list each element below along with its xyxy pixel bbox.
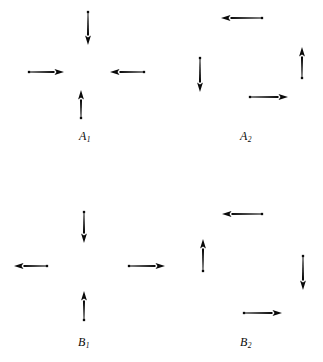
panel-label-A1-subscript: 1	[87, 135, 91, 144]
arrow-tail-dot	[87, 11, 89, 13]
A1-bottom-arrow	[78, 90, 84, 119]
vector-field-figure: A1 A2 B1 B2	[0, 0, 323, 362]
panel-arrows-B2	[200, 211, 306, 316]
panel-label-B2-subscript: 2	[248, 341, 252, 350]
A2-left-arrow	[197, 57, 203, 92]
panel-label-A2-text: A	[240, 129, 247, 143]
panel-label-A1: A1	[79, 130, 90, 142]
arrow-head	[273, 310, 283, 316]
arrow-shaft	[120, 71, 145, 73]
arrow-shaft	[199, 58, 201, 83]
arrow-tail-dot	[83, 211, 85, 213]
arrow-head	[14, 263, 24, 269]
panel-label-A1-text: A	[79, 129, 86, 143]
arrow-head	[221, 15, 231, 21]
arrow-tail-dot	[249, 96, 251, 98]
arrow-head	[81, 234, 87, 244]
panel-arrows-A2	[197, 15, 305, 100]
arrow-head	[110, 69, 120, 75]
arrow-shaft	[244, 312, 273, 314]
arrow-shaft	[232, 213, 263, 215]
A1-right-arrow	[110, 69, 145, 75]
B2-right-arrow	[300, 255, 306, 290]
B1-right-arrow	[128, 263, 165, 269]
arrow-shaft	[80, 100, 82, 119]
arrow-tail-dot	[80, 117, 82, 119]
arrow-tail-dot	[199, 57, 201, 59]
arrow-shaft	[301, 57, 303, 79]
panel-label-B2: B2	[240, 336, 251, 348]
arrow-head	[200, 239, 206, 249]
panel-arrows-A1	[28, 11, 145, 119]
arrow-shaft	[24, 265, 48, 267]
arrow-head	[85, 36, 91, 46]
panel-arrows-B1	[14, 211, 165, 321]
arrow-shaft	[83, 301, 85, 321]
panel-label-B1-text: B	[78, 335, 85, 349]
B1-left-arrow	[14, 263, 48, 269]
arrow-head	[300, 281, 306, 291]
arrow-shaft	[83, 212, 85, 234]
arrow-head	[222, 211, 232, 217]
arrow-head	[81, 291, 87, 301]
arrow-tail-dot	[128, 265, 130, 267]
arrow-tail-dot	[202, 270, 204, 272]
panel-label-A2-subscript: 2	[248, 135, 252, 144]
arrow-tail-dot	[46, 265, 48, 267]
A2-right-arrow	[299, 47, 305, 79]
arrow-shaft	[231, 17, 263, 19]
arrow-head	[78, 90, 84, 100]
panel-label-B2-text: B	[240, 335, 247, 349]
arrow-tail-dot	[243, 312, 245, 314]
arrow-head	[197, 83, 203, 93]
arrow-tail-dot	[143, 71, 145, 73]
panel-label-B1: B1	[78, 336, 89, 348]
B1-top-arrow	[81, 211, 87, 243]
A2-top-arrow	[221, 15, 263, 21]
arrow-shaft	[29, 71, 55, 73]
B1-bottom-arrow	[81, 291, 87, 321]
arrow-head	[55, 69, 65, 75]
arrow-head	[156, 263, 166, 269]
arrow-head	[299, 47, 305, 57]
arrow-tail-dot	[302, 255, 304, 257]
arrow-layer	[0, 0, 323, 362]
arrow-tail-dot	[261, 17, 263, 19]
B2-left-arrow	[200, 239, 206, 272]
arrow-shaft	[302, 256, 304, 281]
A1-left-arrow	[28, 69, 64, 75]
arrow-head	[279, 94, 289, 100]
arrow-shaft	[129, 265, 156, 267]
arrow-shaft	[202, 249, 204, 272]
arrow-tail-dot	[83, 319, 85, 321]
B2-bottom-arrow	[243, 310, 282, 316]
B2-top-arrow	[222, 211, 263, 217]
arrow-tail-dot	[261, 213, 263, 215]
arrow-shaft	[87, 12, 89, 36]
A2-bottom-arrow	[249, 94, 288, 100]
A1-top-arrow	[85, 11, 91, 45]
arrow-tail-dot	[28, 71, 30, 73]
arrow-shaft	[250, 96, 279, 98]
panel-label-B1-subscript: 1	[86, 341, 90, 350]
arrow-tail-dot	[301, 77, 303, 79]
panel-label-A2: A2	[240, 130, 251, 142]
